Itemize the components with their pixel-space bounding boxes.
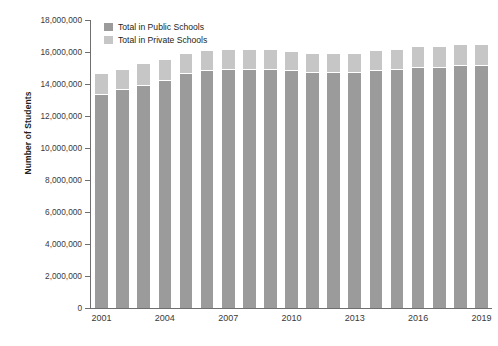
bar-segment-private[interactable] [433, 47, 446, 68]
bar-segment-divider [285, 70, 298, 71]
y-tick-label: 18,000,000 [40, 15, 82, 25]
y-tick-label: 4,000,000 [45, 239, 82, 249]
bar-segment-private[interactable] [391, 50, 404, 70]
bar-segment-divider [370, 70, 383, 71]
bar-segment-public[interactable] [285, 71, 298, 308]
bar-segment-private[interactable] [116, 70, 129, 91]
bar-group[interactable] [433, 20, 446, 308]
chart-legend: Total in Public SchoolsTotal in Private … [104, 21, 207, 47]
y-tick-label: 10,000,000 [40, 143, 82, 153]
bar-group[interactable] [327, 20, 340, 308]
legend-swatch-icon [104, 23, 113, 31]
bar-segment-private[interactable] [370, 51, 383, 71]
y-tick-label: 16,000,000 [40, 47, 82, 57]
bar-segment-private[interactable] [180, 54, 193, 74]
bar-segment-public[interactable] [116, 90, 129, 308]
bar-group[interactable] [391, 20, 404, 308]
bar-group[interactable] [116, 20, 129, 308]
bar-group[interactable] [201, 20, 214, 308]
bar-group[interactable] [243, 20, 256, 308]
bar-segment-public[interactable] [201, 71, 214, 308]
y-tick-label: 0 [77, 303, 82, 313]
stacked-bar-chart: Number of Students 02,000,0004,000,0006,… [0, 0, 498, 346]
bar-segment-public[interactable] [243, 70, 256, 308]
bar-segment-private[interactable] [222, 50, 235, 70]
bar-segment-private[interactable] [243, 50, 256, 69]
y-tick-mark [85, 180, 90, 181]
y-tick-mark [85, 52, 90, 53]
bar-segment-private[interactable] [264, 50, 277, 69]
bar-segment-private[interactable] [475, 45, 488, 67]
y-axis-tick-labels: 02,000,0004,000,0006,000,0008,000,00010,… [0, 0, 82, 346]
bar-segment-divider [264, 69, 277, 70]
legend-label: Total in Public Schools [118, 23, 204, 32]
bar-segment-divider [327, 72, 340, 73]
bar-segment-divider [222, 69, 235, 70]
bar-group[interactable] [264, 20, 277, 308]
bar-group[interactable] [180, 20, 193, 308]
bar-segment-public[interactable] [370, 71, 383, 308]
bar-segment-public[interactable] [137, 86, 150, 308]
legend-swatch-icon [104, 36, 113, 44]
bar-group[interactable] [370, 20, 383, 308]
bar-segment-divider [454, 65, 467, 66]
bar-segment-public[interactable] [306, 73, 319, 308]
x-tick-label: 2007 [218, 313, 238, 323]
bar-segment-public[interactable] [327, 73, 340, 308]
y-tick-label: 12,000,000 [40, 111, 82, 121]
bar-segment-private[interactable] [348, 54, 361, 73]
bar-segment-public[interactable] [475, 66, 488, 308]
bar-segment-public[interactable] [412, 68, 425, 308]
bar-group[interactable] [412, 20, 425, 308]
bar-segment-public[interactable] [180, 74, 193, 308]
y-tick-mark [85, 212, 90, 213]
bar-segment-private[interactable] [201, 51, 214, 71]
bar-segment-private[interactable] [95, 74, 108, 95]
bar-segment-public[interactable] [454, 66, 467, 308]
bar-segment-divider [159, 80, 172, 81]
bar-group[interactable] [159, 20, 172, 308]
bar-segment-divider [433, 67, 446, 68]
bar-segment-public[interactable] [264, 70, 277, 308]
bar-group[interactable] [95, 20, 108, 308]
bar-group[interactable] [137, 20, 150, 308]
bar-group[interactable] [222, 20, 235, 308]
bar-segment-private[interactable] [137, 64, 150, 86]
legend-item[interactable]: Total in Private Schools [104, 34, 207, 46]
bar-segment-divider [475, 65, 488, 66]
bar-segment-public[interactable] [348, 73, 361, 308]
bar-group[interactable] [306, 20, 319, 308]
y-tick-label: 8,000,000 [45, 175, 82, 185]
bar-group[interactable] [348, 20, 361, 308]
x-tick-label: 2016 [408, 313, 428, 323]
y-tick-mark [85, 84, 90, 85]
bar-segment-public[interactable] [391, 70, 404, 308]
y-tick-label: 6,000,000 [45, 207, 82, 217]
bar-group[interactable] [475, 20, 488, 308]
bar-segment-divider [306, 72, 319, 73]
bar-group[interactable] [285, 20, 298, 308]
y-tick-mark [85, 20, 90, 21]
bar-segment-divider [243, 69, 256, 70]
x-tick-label: 2001 [92, 313, 112, 323]
y-tick-mark [85, 116, 90, 117]
bar-segment-private[interactable] [327, 54, 340, 72]
bar-segment-public[interactable] [159, 81, 172, 308]
bar-segment-private[interactable] [159, 60, 172, 81]
bar-segment-private[interactable] [285, 52, 298, 71]
y-tick-label: 14,000,000 [40, 79, 82, 89]
plot-area [91, 20, 492, 308]
bar-segment-divider [201, 70, 214, 71]
bar-segment-private[interactable] [454, 45, 467, 67]
bar-segment-private[interactable] [412, 47, 425, 68]
x-tick-label: 2019 [471, 313, 491, 323]
bar-segment-public[interactable] [222, 70, 235, 308]
y-tick-mark [85, 308, 90, 309]
bar-segment-divider [180, 73, 193, 74]
bar-segment-public[interactable] [433, 68, 446, 308]
y-tick-mark [85, 276, 90, 277]
bar-segment-private[interactable] [306, 54, 319, 72]
bar-group[interactable] [454, 20, 467, 308]
bar-segment-public[interactable] [95, 95, 108, 308]
legend-item[interactable]: Total in Public Schools [104, 21, 207, 33]
